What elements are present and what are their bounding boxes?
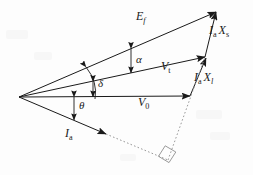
label-ia-subscript: a xyxy=(69,133,73,142)
label-ia-xl-x: X xyxy=(204,70,211,84)
label-ia-xl-i-subscript: a xyxy=(198,77,202,86)
phasor-diagram: Ef IaXs Vt IaXl V0 Ia α δ θ xyxy=(0,0,253,175)
label-angle-theta: θ xyxy=(79,100,84,111)
vector-vt-line xyxy=(19,57,205,97)
label-ia: Ia xyxy=(65,127,73,143)
right-angle-icon xyxy=(159,146,176,163)
label-vt-subscript: t xyxy=(168,66,170,75)
label-ia-xs-x: X xyxy=(219,23,226,37)
label-ia-xs-x-subscript: s xyxy=(226,30,229,39)
label-vt: Vt xyxy=(161,60,171,76)
label-ia-xs-i-subscript: a xyxy=(213,30,217,39)
label-ef: Ef xyxy=(136,10,146,26)
vector-ia-line xyxy=(19,97,106,134)
label-ef-subscript: f xyxy=(143,16,145,25)
angle-arc-delta xyxy=(86,67,96,99)
label-v0-subscript: 0 xyxy=(145,102,149,111)
label-v0: V0 xyxy=(138,96,149,112)
label-angle-alpha: α xyxy=(136,54,142,65)
vector-v0-line xyxy=(19,96,190,97)
label-angle-delta: δ xyxy=(98,78,103,89)
label-ia-xl-x-subscript: l xyxy=(211,77,213,86)
label-ia-xl: IaXl xyxy=(194,71,213,87)
label-ia-xs: IaXs xyxy=(209,24,229,40)
vector-ef-line xyxy=(19,12,216,97)
